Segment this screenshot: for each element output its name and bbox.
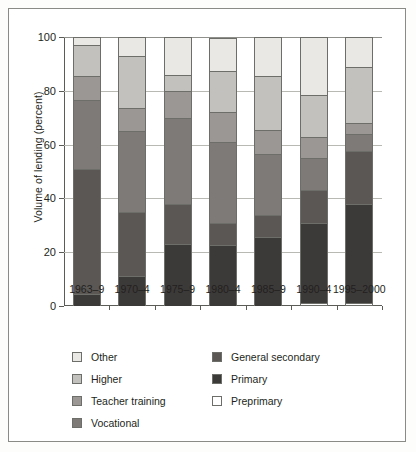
bar-stack[interactable]	[164, 37, 192, 306]
y-axis-tick-label: 100	[38, 31, 56, 43]
x-axis-tick	[337, 306, 338, 310]
legend-item[interactable]: Other	[72, 346, 166, 368]
y-axis-tick	[59, 145, 64, 146]
x-axis-tick	[291, 306, 292, 310]
y-axis-tick-label: 40	[44, 192, 56, 204]
legend-swatch-icon	[72, 418, 82, 428]
y-axis-line	[64, 37, 65, 306]
bar-segment[interactable]	[254, 215, 282, 238]
bar-segment[interactable]	[345, 151, 373, 203]
bar-segment[interactable]	[254, 237, 282, 306]
bar-segment[interactable]	[254, 130, 282, 154]
chart-figure: Volume of lending (percent) 020406080100…	[0, 0, 416, 452]
bar-segment[interactable]	[164, 204, 192, 244]
legend-item-label: Other	[91, 351, 117, 363]
y-axis-tick	[59, 198, 64, 199]
y-axis-tick	[59, 91, 64, 92]
x-axis-tick-label: 1970–4	[115, 283, 150, 295]
legend-swatch-icon	[212, 374, 222, 384]
y-axis-title: Volume of lending (percent)	[32, 67, 44, 247]
legend-item[interactable]: Teacher training	[72, 390, 166, 412]
bar-segment[interactable]	[209, 38, 237, 70]
bar-stack[interactable]	[209, 37, 237, 306]
legend-item-label: Teacher training	[91, 395, 166, 407]
legend-column-right: General secondaryPrimaryPreprimary	[212, 346, 320, 412]
legend-item[interactable]: General secondary	[212, 346, 320, 368]
x-axis-tick	[246, 306, 247, 310]
legend-column-left: OtherHigherTeacher trainingVocational	[72, 346, 166, 434]
bar-segment[interactable]	[300, 137, 328, 159]
bar-segment[interactable]	[164, 91, 192, 118]
bar-stack[interactable]	[300, 37, 328, 306]
bar-segment[interactable]	[345, 123, 373, 134]
bar-segment[interactable]	[254, 37, 282, 76]
bar-segment[interactable]	[300, 190, 328, 222]
y-axis-tick	[59, 37, 64, 38]
legend-item[interactable]: Preprimary	[212, 390, 320, 412]
bar-segment[interactable]	[73, 37, 101, 45]
legend-swatch-icon	[72, 352, 82, 362]
bar-segment[interactable]	[254, 76, 282, 130]
bar-segment[interactable]	[118, 108, 146, 131]
bar-segment[interactable]	[164, 37, 192, 75]
x-axis-tick-label: 1985–9	[251, 283, 286, 295]
bar-segment[interactable]	[300, 95, 328, 137]
y-axis-tick-label: 0	[50, 300, 56, 312]
bar-segment[interactable]	[254, 154, 282, 215]
y-axis-tick	[59, 252, 64, 253]
x-axis-tick	[155, 306, 156, 310]
x-axis-tick	[109, 306, 110, 310]
chart-legend: OtherHigherTeacher trainingVocational Ge…	[64, 346, 394, 436]
bar-segment[interactable]	[73, 294, 101, 306]
legend-item[interactable]: Vocational	[72, 412, 166, 434]
x-axis-tick	[382, 306, 383, 310]
y-axis-tick-label: 60	[44, 139, 56, 151]
y-axis-tick	[59, 306, 64, 307]
bar-segment[interactable]	[73, 45, 101, 76]
bar-segment[interactable]	[345, 303, 373, 306]
bar-segment[interactable]	[118, 56, 146, 108]
bar-segment[interactable]	[164, 75, 192, 91]
bar-segment[interactable]	[345, 37, 373, 67]
chart-frame: Volume of lending (percent) 020406080100…	[8, 8, 406, 442]
x-axis-tick-label: 1995–2000	[333, 283, 386, 295]
legend-item[interactable]: Higher	[72, 368, 166, 390]
plot-area: 020406080100	[64, 37, 382, 306]
bar-stack[interactable]	[345, 37, 373, 306]
legend-item-label: Vocational	[91, 417, 139, 429]
bar-segment[interactable]	[118, 212, 146, 277]
bar-segment[interactable]	[73, 76, 101, 100]
bar-segment[interactable]	[209, 112, 237, 142]
x-axis-tick-label: 1990–4	[296, 283, 331, 295]
legend-swatch-icon	[212, 352, 222, 362]
x-axis-tick-label: 1980–4	[205, 283, 240, 295]
legend-item-label: Primary	[231, 373, 267, 385]
y-axis-tick-label: 80	[44, 85, 56, 97]
legend-item-label: Preprimary	[231, 395, 282, 407]
bar-segment[interactable]	[164, 118, 192, 204]
bar-segment[interactable]	[345, 67, 373, 123]
legend-swatch-icon	[212, 396, 222, 406]
legend-swatch-icon	[72, 374, 82, 384]
bar-segment[interactable]	[209, 245, 237, 306]
x-axis-tick-label: 1963–9	[69, 283, 104, 295]
bar-segment[interactable]	[300, 158, 328, 190]
y-axis-tick-label: 20	[44, 246, 56, 258]
legend-item[interactable]: Primary	[212, 368, 320, 390]
legend-swatch-icon	[72, 396, 82, 406]
bar-segment[interactable]	[164, 244, 192, 306]
bar-segment[interactable]	[73, 100, 101, 169]
bar-segment[interactable]	[73, 169, 101, 294]
bar-segment[interactable]	[209, 223, 237, 246]
bar-segment[interactable]	[345, 134, 373, 151]
bar-segment[interactable]	[118, 37, 146, 56]
bar-segment[interactable]	[209, 142, 237, 223]
x-axis-tick	[200, 306, 201, 310]
bar-segment[interactable]	[300, 37, 328, 95]
bar-stack[interactable]	[118, 37, 146, 306]
bar-segment[interactable]	[300, 303, 328, 306]
bar-segment[interactable]	[118, 131, 146, 212]
bar-stack[interactable]	[254, 37, 282, 306]
bar-segment[interactable]	[209, 71, 237, 113]
bar-stack[interactable]	[73, 37, 101, 306]
